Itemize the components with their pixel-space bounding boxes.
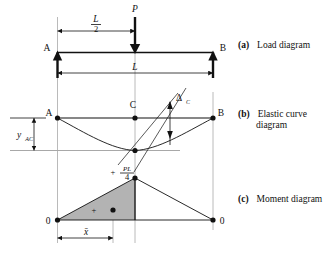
moment-peak-sign: + [111,167,116,177]
yac-label-subscript: AC [24,136,34,142]
node-marker-midspan-deflected [132,148,137,153]
panel-c-caption-text: Moment diagram [257,194,323,204]
moment-node-peak [132,175,137,180]
panel-b-tag: (b) [238,109,250,120]
node-marker-b [210,115,215,120]
delta-c-symbol: Δ [176,93,182,103]
point-load-label: P [131,4,138,14]
half-span-numerator: L [92,14,98,24]
elastic-label-a: A [46,108,53,118]
node-marker-c [132,115,137,120]
moment-node-right [210,217,215,222]
span-label: L [131,62,137,72]
moment-node-left [55,217,60,222]
moment-area-sign: + [92,205,97,215]
support-label-b: B [220,43,226,53]
elastic-label-c: C [130,100,136,110]
beam-diagram-figure: L 2 P A B [0,0,327,260]
panel-c-tag: (c) [238,194,249,205]
moment-zero-left: 0 [46,216,51,226]
panel-a-caption-text: Load diagram [257,40,311,50]
centroid-distance-label: x̄ [83,227,89,237]
panel-b-caption-line2: diagram [256,120,288,130]
support-label-a: A [44,43,51,53]
panel-a-tag: (a) [238,40,249,51]
moment-zero-right: 0 [220,216,225,226]
node-marker-a [55,115,60,120]
half-span-denominator: 2 [94,24,98,34]
panel-b-caption-line1: Elastic curve [258,109,307,119]
elastic-label-b: B [218,108,224,118]
beam-diagram-svg: L 2 P A B [0,0,327,260]
moment-area-centroid-marker [110,207,115,212]
yac-label-symbol: y [16,130,22,140]
